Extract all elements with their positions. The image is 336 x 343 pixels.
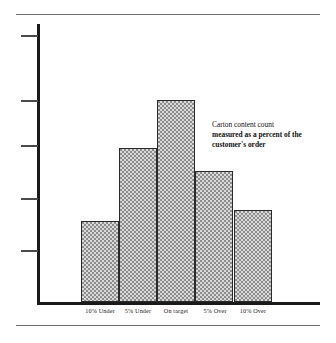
y-axis-line: [37, 24, 40, 305]
annotation-line-2: measured as a percent of the: [212, 130, 330, 140]
x-axis-line: [37, 302, 320, 305]
bar-10-over: [234, 210, 272, 302]
bar-series: [81, 24, 272, 302]
y-axis-tick-5: [21, 250, 38, 252]
y-axis-tick-4: [21, 198, 38, 200]
annotation-line-1: Carton content count: [212, 120, 330, 130]
y-axis-tick-3: [21, 145, 38, 147]
x-axis-label-10-over: 10% Over: [222, 307, 284, 314]
bar-5-over: [195, 171, 233, 302]
chart-annotation: Carton content count measured as a perce…: [212, 120, 330, 151]
chart-figure: 10% Under 5% Under On target 5% Over 10%…: [0, 0, 336, 343]
bar-10-under: [81, 221, 119, 302]
bar-on-target: [157, 100, 195, 302]
y-axis-tick-2: [21, 100, 38, 102]
y-axis-tick-1: [21, 35, 38, 37]
top-divider-rule: [16, 14, 320, 15]
bottom-divider-rule: [16, 325, 320, 326]
annotation-line-3: customer's order: [212, 140, 330, 150]
bar-5-under: [119, 148, 157, 302]
